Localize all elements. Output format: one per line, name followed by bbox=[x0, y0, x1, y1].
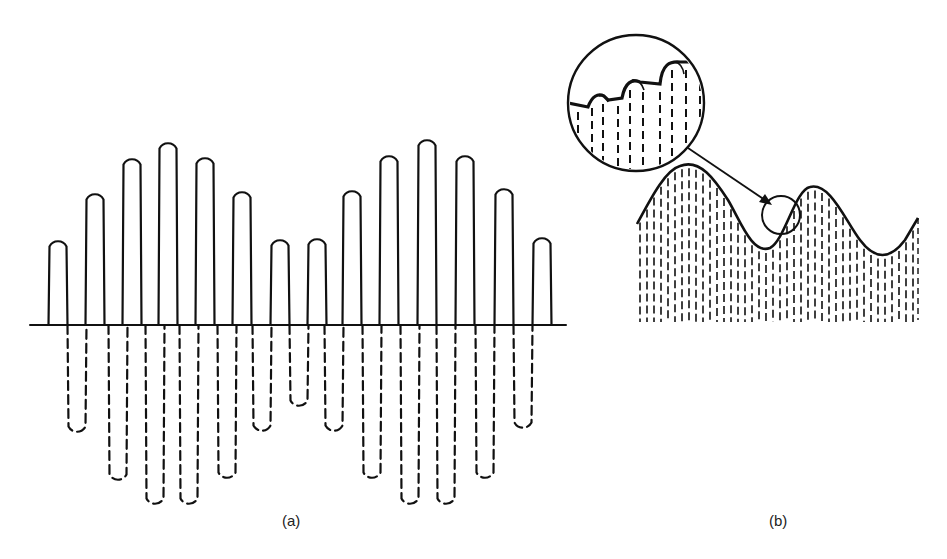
positive-lobe bbox=[271, 240, 290, 325]
negative-lobe bbox=[401, 325, 420, 504]
positive-lobe bbox=[495, 189, 514, 325]
negative-lobe bbox=[290, 325, 309, 406]
negative-lobe bbox=[363, 325, 382, 478]
positive-lobe bbox=[233, 192, 252, 325]
negative-lobe bbox=[146, 325, 165, 504]
positive-lobe bbox=[343, 191, 362, 325]
negative-lobe bbox=[180, 325, 199, 504]
positive-lobe bbox=[123, 159, 142, 325]
panel-b-detected-envelope bbox=[568, 35, 918, 322]
positive-lobe bbox=[308, 239, 327, 325]
envelope-curve bbox=[637, 164, 918, 255]
positive-lobe bbox=[49, 241, 68, 325]
positive-half-cycles bbox=[49, 140, 552, 325]
positive-lobe bbox=[159, 143, 178, 325]
positive-lobe bbox=[196, 158, 215, 325]
positive-lobe bbox=[456, 156, 475, 325]
negative-half-cycles-dashed bbox=[68, 325, 533, 504]
negative-lobe bbox=[476, 325, 495, 478]
negative-lobe bbox=[218, 325, 237, 478]
negative-lobe bbox=[109, 325, 128, 480]
envelope-detection-figure bbox=[0, 0, 947, 559]
positive-lobe bbox=[418, 140, 437, 325]
negative-lobe bbox=[68, 325, 87, 432]
caption-b: (b) bbox=[769, 512, 787, 529]
positive-lobe bbox=[533, 238, 552, 325]
negative-lobe bbox=[253, 325, 272, 431]
carrier-pulses-hatching bbox=[640, 168, 913, 322]
negative-lobe bbox=[325, 325, 344, 431]
magnify-arrow bbox=[688, 148, 768, 202]
positive-lobe bbox=[86, 194, 105, 325]
positive-lobe bbox=[380, 156, 399, 325]
negative-lobe bbox=[514, 325, 533, 428]
panel-a-am-waveform bbox=[30, 140, 566, 504]
negative-lobe bbox=[437, 325, 456, 504]
caption-a: (a) bbox=[282, 512, 300, 529]
magnified-inset bbox=[568, 35, 706, 175]
